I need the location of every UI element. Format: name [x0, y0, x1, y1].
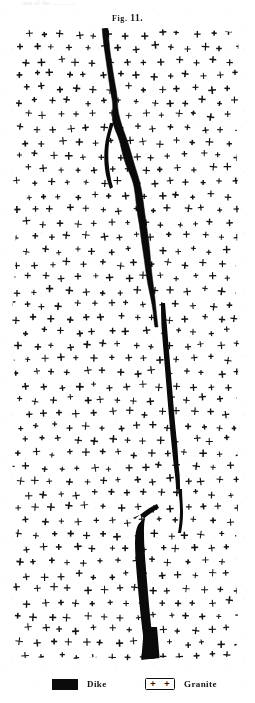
plus-icon-left: + [150, 680, 155, 689]
granite-plus-symbol [10, 598, 12, 605]
granite-plus-symbol [10, 573, 12, 579]
cross-section-svg [10, 27, 245, 663]
granite-plus-symbol [235, 263, 241, 269]
figure-caption-number: 11. [130, 13, 143, 23]
granite-plus-symbol [10, 492, 13, 498]
granite-plus-symbol [10, 195, 12, 201]
dike-foot [141, 627, 160, 663]
granite-plus-symbol [10, 245, 13, 253]
granite-plus-symbol [10, 380, 11, 386]
page-top-text-remnant: ture of the ..... .... .. [22, 0, 142, 6]
legend-label-dike: Dike [87, 679, 107, 689]
granite-plus-symbol [236, 395, 241, 400]
granite-plus-symbol [10, 59, 14, 65]
legend-item-granite: + + Granite [145, 676, 217, 692]
legend-swatch-dike [52, 679, 78, 690]
figure-caption: Fig. 11. [0, 13, 255, 23]
granite-plus-symbol [10, 139, 11, 146]
granite-plus-symbol [10, 627, 13, 633]
granite-plus-symbol [10, 110, 11, 116]
granite-plus-symbol [10, 655, 11, 660]
granite-plus-symbol [10, 410, 11, 417]
plate-background [10, 27, 245, 663]
granite-plus-symbol [10, 217, 12, 225]
granite-plus-symbol [10, 329, 11, 335]
figure-caption-prefix: Fig. [112, 14, 128, 23]
plus-icon-right: + [164, 680, 169, 689]
granite-plus-symbol [10, 31, 13, 39]
granite-plus-symbol [10, 83, 12, 90]
granite-plus-symbol [10, 546, 13, 551]
legend: Dike + + Granite [0, 674, 255, 698]
legend-item-dike: Dike [52, 676, 107, 692]
granite-plus-symbol [235, 555, 242, 562]
figure-illustration [10, 27, 245, 663]
granite-plus-symbol [235, 290, 241, 296]
granite-plus-symbol [10, 518, 12, 524]
legend-label-granite: Granite [184, 679, 217, 689]
granite-plus-symbol [10, 165, 11, 171]
granite-plus-symbol [10, 434, 12, 441]
legend-swatch-granite: + + [145, 678, 175, 690]
